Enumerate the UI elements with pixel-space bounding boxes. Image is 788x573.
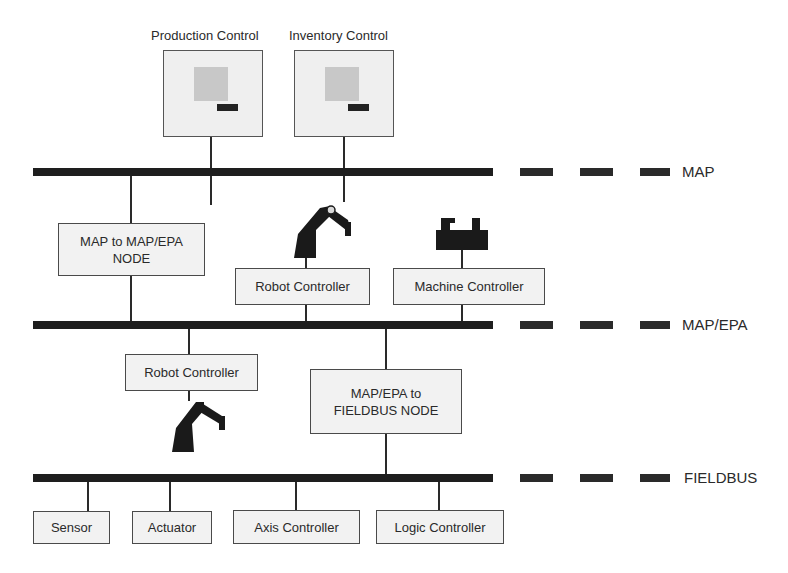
map-to-map-epa-node: MAP to MAP/EPA NODE [58, 223, 205, 276]
gateway-upper-connector [130, 176, 132, 223]
fieldbus-bus-dash [580, 474, 613, 482]
fieldbus-gateway-lower-connector [385, 434, 387, 474]
axis-controller-connector [295, 482, 297, 511]
robot-controller-epa-level: Robot Controller [125, 354, 258, 391]
map-bus-label: MAP [682, 163, 715, 180]
logic-controller-connector [438, 482, 440, 511]
machine-controller-label: Machine Controller [414, 278, 523, 295]
machine-controller: Machine Controller [393, 268, 545, 305]
fieldbus-gateway-label-line1: MAP/EPA to [351, 385, 422, 402]
fieldbus-bus-dash [640, 474, 670, 482]
robot-controller-map-level: Robot Controller [235, 268, 370, 305]
gateway-label-line1: MAP to MAP/EPA [80, 233, 183, 250]
actuator-box: Actuator [132, 511, 212, 544]
fieldbus-bus [33, 474, 493, 482]
robot-controller-label: Robot Controller [255, 278, 350, 295]
screen-icon [325, 67, 359, 101]
sensor-label: Sensor [51, 519, 92, 536]
map-epa-bus [33, 321, 493, 329]
robot-arm-icon [170, 398, 232, 454]
machine-controller-connector [461, 305, 463, 322]
fieldbus-gateway-upper-connector [385, 329, 387, 370]
inventory-control-computer-icon [294, 50, 394, 137]
actuator-connector [169, 482, 171, 511]
machine-tool-icon [436, 216, 492, 252]
fieldbus-bus-dash [520, 474, 553, 482]
map-epa-bus-dash [520, 321, 553, 329]
machine-controller-icon-connector [461, 250, 463, 268]
gateway-label-line2: NODE [113, 250, 151, 267]
robot-arm-icon [290, 200, 360, 260]
logic-controller-label: Logic Controller [394, 519, 485, 536]
map-epa-bus-dash [640, 321, 670, 329]
inventory-control-label: Inventory Control [289, 28, 388, 43]
actuator-label: Actuator [148, 519, 196, 536]
map-bus-dash [520, 168, 553, 176]
screen-icon [194, 67, 228, 101]
fieldbus-gateway-label-line2: FIELDBUS NODE [334, 402, 439, 419]
map-bus-dash [640, 168, 670, 176]
map-epa-bus-dash [580, 321, 613, 329]
disk-drive-icon [348, 104, 369, 111]
map-epa-bus-label: MAP/EPA [682, 316, 748, 333]
fieldbus-bus-label: FIELDBUS [684, 469, 757, 486]
logic-controller-box: Logic Controller [376, 510, 504, 544]
axis-controller-box: Axis Controller [233, 510, 360, 544]
gateway-lower-connector [130, 276, 132, 322]
robot-controller-connector [305, 305, 307, 322]
epa-robot-controller-connector [188, 329, 190, 354]
sensor-box: Sensor [33, 511, 110, 544]
robot-controller-arm-connector [305, 258, 307, 268]
map-epa-to-fieldbus-node: MAP/EPA to FIELDBUS NODE [310, 369, 462, 434]
map-bus-dash [580, 168, 613, 176]
axis-controller-label: Axis Controller [254, 519, 339, 536]
robot-controller-label: Robot Controller [144, 364, 239, 381]
production-control-label: Production Control [151, 28, 259, 43]
sensor-connector [87, 482, 89, 511]
map-bus [33, 168, 493, 176]
disk-drive-icon [217, 104, 238, 111]
production-control-computer-icon [163, 50, 263, 137]
